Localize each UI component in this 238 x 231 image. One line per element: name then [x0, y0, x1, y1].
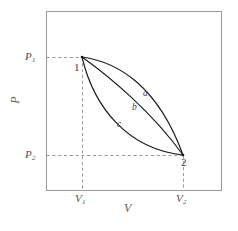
- y-tick-label-p2: P2: [25, 149, 35, 161]
- x-tick-v1-base: V: [75, 192, 82, 204]
- y-axis-label: P: [9, 93, 21, 107]
- state-point-1-marker: [81, 56, 84, 59]
- y-tick-p1-base: P: [25, 50, 32, 62]
- x-tick-v2-base: V: [176, 192, 183, 204]
- plot-frame: [47, 12, 222, 191]
- x-tick-v1-sub: 1: [82, 198, 85, 205]
- x-tick-label-v1: V1: [75, 193, 85, 205]
- plot-canvas: [0, 0, 238, 231]
- curve-label-a: a: [143, 89, 148, 99]
- state-point-1-label: 1: [74, 62, 80, 73]
- x-tick-label-v2: V2: [176, 193, 186, 205]
- x-axis-label: V: [124, 202, 131, 214]
- y-tick-p2-sub: 2: [32, 154, 35, 161]
- curve-label-b: b: [132, 103, 137, 113]
- state-point-2-label: 2: [181, 157, 187, 168]
- curve-label-c: c: [117, 120, 121, 130]
- x-tick-v2-sub: 2: [183, 198, 186, 205]
- y-tick-p1-sub: 1: [32, 56, 35, 63]
- y-tick-label-p1: P1: [25, 51, 35, 63]
- y-tick-p2-base: P: [25, 148, 32, 160]
- pv-diagram-figure: P V P1 P2 V1 V2 1 2 a b c: [0, 0, 238, 231]
